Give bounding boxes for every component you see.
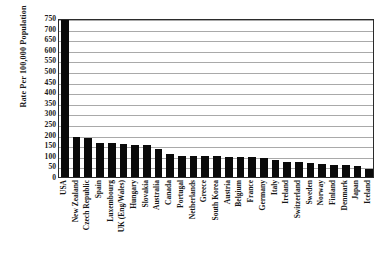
y-axis-tick-label: 300	[34, 111, 56, 119]
bar	[108, 143, 116, 177]
bar	[260, 158, 268, 177]
x-axis-tick-label: Australia	[154, 180, 162, 210]
bar	[201, 156, 209, 177]
bar-series	[59, 20, 373, 177]
x-axis-tick-label: Czech Republic	[84, 180, 92, 230]
x-axis-label-slot: Sweden	[304, 178, 316, 266]
x-axis-tick-label: Denmark	[341, 180, 349, 210]
x-axis-label-slot: France	[245, 178, 257, 266]
y-axis-tick-label: 550	[34, 58, 56, 66]
bar	[190, 156, 198, 177]
bar	[61, 19, 69, 177]
bar	[342, 165, 350, 177]
y-axis-tick-label: 150	[34, 142, 56, 150]
bar	[248, 157, 256, 177]
y-axis-tick-label: 100	[34, 153, 56, 161]
x-axis-label-slot: Canada	[163, 178, 175, 266]
x-axis-label-slot: USA	[58, 178, 70, 266]
bar	[225, 157, 233, 177]
x-axis-label-slot: Slovakia	[140, 178, 152, 266]
x-axis-label-slot: Germany	[257, 178, 269, 266]
bar	[143, 145, 151, 177]
x-axis-tick-label: Finland	[329, 180, 337, 205]
x-axis-label-slot: Belgium	[234, 178, 246, 266]
x-axis-label-slot: Greece	[198, 178, 210, 266]
x-axis-label-slot: South Korea	[210, 178, 222, 266]
x-axis-tick-label: Norway	[318, 180, 326, 205]
bar	[365, 169, 373, 177]
x-axis-label-slot: Hungary	[128, 178, 140, 266]
bar	[283, 162, 291, 177]
y-axis-tick-label: 250	[34, 121, 56, 129]
bar	[354, 166, 362, 177]
bar	[178, 156, 186, 177]
y-axis-tick-label: 350	[34, 100, 56, 108]
bar	[318, 164, 326, 177]
x-axis-tick-label: Sweden	[306, 180, 314, 205]
x-axis-label-slot: Japan	[351, 178, 363, 266]
bar	[307, 163, 315, 177]
bar	[120, 144, 128, 177]
bar-chart: Rate Per 100,000 Population 750700650600…	[0, 0, 392, 267]
x-axis-label-slot: Switzerland	[292, 178, 304, 266]
y-axis-tick-label: 400	[34, 89, 56, 97]
y-axis-tick-label: 50	[34, 164, 56, 172]
x-axis-label-slot: New Zealand	[70, 178, 82, 266]
y-axis-title: Rate Per 100,000 Population	[19, 0, 28, 142]
x-axis-tick-label: New Zealand	[72, 180, 80, 222]
x-axis-label-slot: Finland	[327, 178, 339, 266]
x-axis-tick-label: Greece	[201, 180, 209, 202]
x-axis-tick-label: Switzerland	[294, 180, 302, 218]
x-axis-tick-label: France	[247, 180, 255, 203]
x-axis-category-labels: USANew ZealandCzech RepublicSpainLuxembo…	[58, 178, 374, 266]
x-axis-label-slot: Australia	[152, 178, 164, 266]
x-axis-label-slot: UK (Eng/Wales)	[117, 178, 129, 266]
x-axis-label-slot: Denmark	[339, 178, 351, 266]
y-axis-tick-labels: 7507006506005505004504003503002502001501…	[34, 19, 56, 178]
y-axis-tick-label: 500	[34, 68, 56, 76]
x-axis-tick-label: UK (Eng/Wales)	[119, 180, 127, 232]
x-axis-tick-label: Luxembourg	[107, 180, 115, 222]
y-axis-tick-label: 450	[34, 79, 56, 87]
x-axis-tick-label: South Korea	[212, 180, 220, 221]
y-axis-tick-label: 650	[34, 36, 56, 44]
bar	[272, 160, 280, 177]
x-axis-tick-label: Slovakia	[142, 180, 150, 208]
bar	[213, 156, 221, 177]
y-axis-tick-label: 700	[34, 26, 56, 34]
x-axis-label-slot: Ireland	[280, 178, 292, 266]
x-axis-label-slot: Portugal	[175, 178, 187, 266]
x-axis-tick-label: Spain	[95, 180, 103, 198]
x-axis-tick-label: Canada	[165, 180, 173, 205]
x-axis-tick-label: USA	[60, 180, 68, 195]
plot-area	[58, 19, 374, 178]
x-axis-label-slot: Netherlands	[187, 178, 199, 266]
x-axis-label-slot: Austria	[222, 178, 234, 266]
x-axis-tick-label: Iceland	[364, 180, 372, 204]
bar	[84, 138, 92, 177]
y-axis-tick-label: 750	[34, 15, 56, 23]
x-axis-label-slot: Spain	[93, 178, 105, 266]
x-axis-tick-label: Portugal	[177, 180, 185, 208]
y-axis-tick-label: 200	[34, 132, 56, 140]
y-axis-tick-label: 0	[34, 174, 56, 182]
x-axis-label-slot: Iceland	[362, 178, 374, 266]
bar	[295, 162, 303, 177]
x-axis-tick-label: Austria	[224, 180, 232, 204]
bar	[96, 143, 104, 177]
bar	[330, 165, 338, 177]
bar	[131, 145, 139, 177]
x-axis-tick-label: Belgium	[236, 180, 244, 207]
x-axis-label-slot: Czech Republic	[81, 178, 93, 266]
x-axis-tick-label: Italy	[271, 180, 279, 195]
x-axis-tick-label: Netherlands	[189, 180, 197, 219]
y-axis-tick-label: 600	[34, 47, 56, 55]
x-axis-label-slot: Italy	[269, 178, 281, 266]
bar	[73, 137, 81, 177]
x-axis-label-slot: Luxembourg	[105, 178, 117, 266]
bar	[166, 154, 174, 177]
x-axis-tick-label: Germany	[259, 180, 267, 210]
x-axis-tick-label: Ireland	[282, 180, 290, 204]
bar	[237, 157, 245, 177]
bar	[155, 149, 163, 177]
